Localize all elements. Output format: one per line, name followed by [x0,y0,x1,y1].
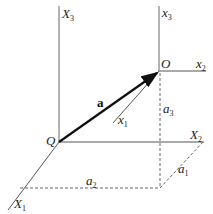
label-O: O [161,56,171,71]
label-a2: a2 [86,173,97,190]
label-X2: X2 [189,127,202,144]
label-x1: x1 [117,112,128,129]
label-X1: X1 [13,196,26,213]
label-x3: x3 [161,5,172,22]
vector-a [59,73,157,142]
label-Q: Q [46,133,56,148]
label-a1: a1 [178,161,189,178]
diagram-canvas: X3 x3 O x2 a x1 a3 Q X2 a1 a2 X1 [0,0,213,214]
label-X3: X3 [61,6,74,23]
label-a3: a3 [163,101,174,118]
label-a: a [97,95,104,110]
label-x2: x2 [195,56,206,73]
